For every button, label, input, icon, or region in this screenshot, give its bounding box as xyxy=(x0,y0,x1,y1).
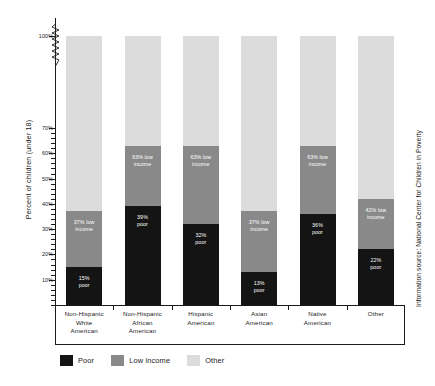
bar-segment-poor[interactable]: 39%poor xyxy=(125,206,161,305)
bar-group[interactable]: 37% lowincome13%poor xyxy=(241,36,277,305)
bar-group[interactable]: 42% lowincome22%poor xyxy=(358,36,394,305)
category-label: Non-HispanicAfricanAmerican xyxy=(113,310,171,336)
y-minor-tick xyxy=(51,184,55,185)
y-minor-tick xyxy=(51,270,55,271)
y-minor-tick xyxy=(51,244,55,245)
category-label-line: Non-Hispanic xyxy=(113,310,171,319)
bar-segment-poor[interactable]: 36%poor xyxy=(300,214,336,305)
bar-segment-low-income[interactable]: 42% lowincome xyxy=(358,199,394,250)
legend-item[interactable]: Poor xyxy=(60,355,94,366)
plot-area: 100%70%60%50%40%30%20%10% 37% lowincome1… xyxy=(55,18,405,305)
category-label-line: Other xyxy=(347,310,405,319)
legend-swatch-icon xyxy=(111,355,124,366)
category-divider xyxy=(230,305,231,310)
y-minor-tick xyxy=(51,295,55,296)
category-divider xyxy=(172,305,173,310)
bar-segment-poor[interactable]: 32%poor xyxy=(183,224,219,305)
bar-segment-other[interactable] xyxy=(300,36,336,146)
bar-label-poor: 32%poor xyxy=(183,232,219,246)
bar-segment-poor[interactable]: 13%poor xyxy=(241,272,277,305)
y-minor-tick xyxy=(51,143,55,144)
bar-segment-other[interactable] xyxy=(241,36,277,211)
y-minor-tick xyxy=(51,133,55,134)
bar-segment-other[interactable] xyxy=(66,36,102,211)
y-tick-label-70: 70% xyxy=(13,125,53,131)
y-minor-tick xyxy=(51,209,55,210)
category-divider xyxy=(288,305,289,310)
source-note: Information source: National Center for … xyxy=(415,119,422,319)
y-minor-tick xyxy=(51,290,55,291)
bar-segment-low-income[interactable]: 63% lowincome xyxy=(125,146,161,207)
y-minor-tick xyxy=(51,194,55,195)
y-tick-label-40: 40% xyxy=(13,201,53,207)
bar-segment-low-income[interactable]: 63% lowincome xyxy=(300,146,336,214)
bar-label-low-income: 37% lowincome xyxy=(66,219,102,233)
bar-segment-other[interactable] xyxy=(183,36,219,146)
y-minor-tick xyxy=(51,174,55,175)
category-label-line: American xyxy=(113,327,171,336)
legend-item[interactable]: Low income xyxy=(111,355,170,366)
legend-item[interactable]: Other xyxy=(187,355,224,366)
bar-label-poor: 39%poor xyxy=(125,214,161,228)
bar-label-poor: 15%poor xyxy=(66,275,102,289)
bar-segment-low-income[interactable]: 63% lowincome xyxy=(183,146,219,224)
y-minor-tick xyxy=(51,189,55,190)
bar-segment-poor[interactable]: 22%poor xyxy=(358,249,394,305)
y-minor-tick xyxy=(51,300,55,301)
y-minor-tick xyxy=(51,239,55,240)
y-tick-label-60: 60% xyxy=(13,150,53,156)
bar-group[interactable]: 63% lowincome36%poor xyxy=(300,36,336,305)
bar-segment-poor[interactable]: 15%poor xyxy=(66,267,102,305)
bar-group[interactable]: 63% lowincome39%poor xyxy=(125,36,161,305)
y-minor-tick xyxy=(51,265,55,266)
y-tick-label-30: 30% xyxy=(13,226,53,232)
bar-label-poor: 13%poor xyxy=(241,280,277,294)
legend-label: Poor xyxy=(78,356,94,365)
category-label: NativeAmerican xyxy=(288,310,346,327)
y-minor-tick xyxy=(51,214,55,215)
bar-group[interactable]: 63% lowincome32%poor xyxy=(183,36,219,305)
category-label-line: African xyxy=(113,319,171,328)
category-label-line: Native xyxy=(288,310,346,319)
category-label: Other xyxy=(347,310,405,319)
category-label-line: Asian xyxy=(230,310,288,319)
category-label: Non-HispanicWhiteAmerican xyxy=(55,310,113,336)
bar-segment-low-income[interactable]: 37% lowincome xyxy=(66,211,102,267)
category-divider xyxy=(347,305,348,310)
legend-swatch-icon xyxy=(60,355,73,366)
legend: PoorLow incomeOther xyxy=(60,355,241,366)
y-minor-tick xyxy=(51,259,55,260)
bar-label-low-income: 63% lowincome xyxy=(183,154,219,168)
legend-label: Other xyxy=(205,356,224,365)
category-divider xyxy=(113,305,114,310)
category-label-line: American xyxy=(55,327,113,336)
category-label-line: American xyxy=(288,319,346,328)
category-label-line: White xyxy=(55,319,113,328)
y-minor-tick xyxy=(51,285,55,286)
y-tick-label-20: 20% xyxy=(13,251,53,257)
category-label-line: Hispanic xyxy=(172,310,230,319)
legend-swatch-icon xyxy=(187,355,200,366)
bar-segment-other[interactable] xyxy=(358,36,394,199)
y-tick-label-10: 10% xyxy=(13,277,53,283)
category-label: AsianAmerican xyxy=(230,310,288,327)
y-minor-tick xyxy=(51,224,55,225)
y-tick-label-100: 100% xyxy=(13,33,53,39)
bar-label-low-income: 37% lowincome xyxy=(241,219,277,233)
bar-label-low-income: 63% lowincome xyxy=(125,154,161,168)
y-minor-tick xyxy=(51,158,55,159)
category-label-line: American xyxy=(230,319,288,328)
y-minor-tick xyxy=(51,163,55,164)
bar-group[interactable]: 37% lowincome15%poor xyxy=(66,36,102,305)
bar-segment-low-income[interactable]: 37% lowincome xyxy=(241,211,277,272)
y-minor-tick xyxy=(51,148,55,149)
bar-label-poor: 22%poor xyxy=(358,257,394,271)
y-minor-tick xyxy=(51,219,55,220)
stacked-bar-chart: Percent of children (under 18) Informati… xyxy=(0,0,435,386)
y-minor-tick xyxy=(51,234,55,235)
bar-label-poor: 36%poor xyxy=(300,222,336,236)
bar-segment-other[interactable] xyxy=(125,36,161,146)
y-minor-tick xyxy=(51,275,55,276)
axis-break-icon xyxy=(50,24,61,66)
y-minor-tick xyxy=(51,168,55,169)
